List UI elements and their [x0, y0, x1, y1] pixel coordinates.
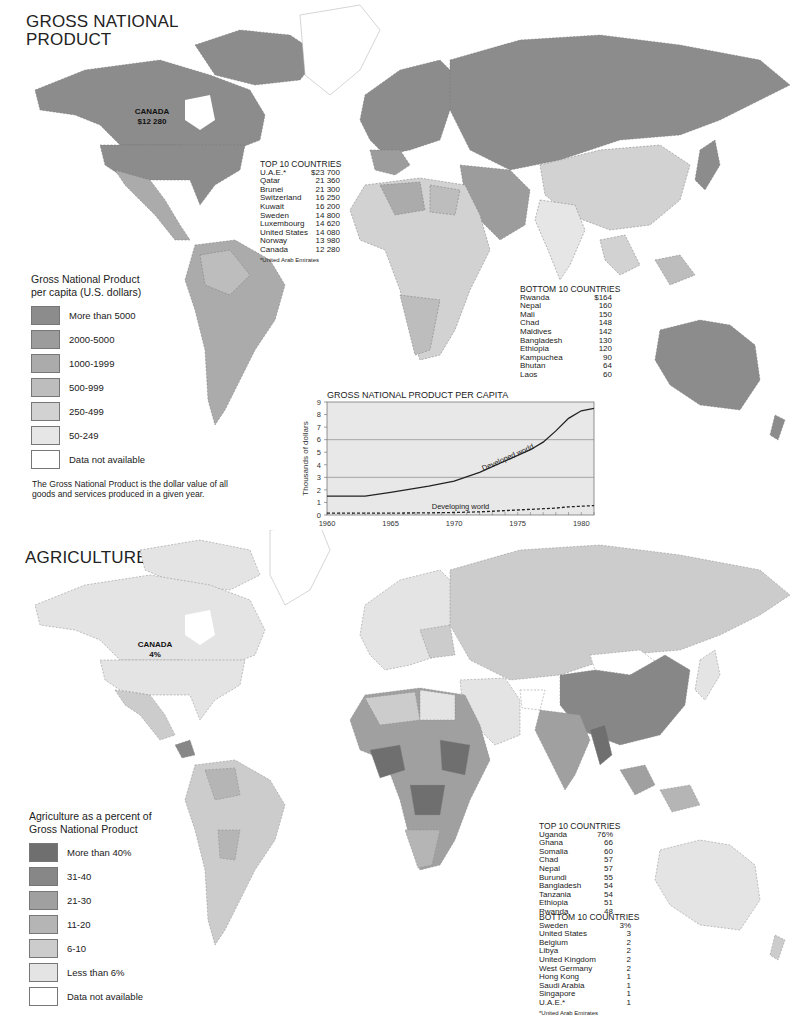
- agriculture-top10-table: TOP 10 COUNTRIES Uganda76%Ghana66Somalia…: [539, 822, 613, 917]
- agriculture-legend-title-line1: Agriculture as a percent of: [29, 810, 152, 823]
- x-tick-label: 1975: [509, 519, 526, 528]
- x-tick-label: 1970: [446, 519, 463, 528]
- agriculture-canada-name: CANADA: [125, 640, 185, 650]
- legend-item: 2000-5000: [31, 327, 145, 351]
- y-tick-label: 3: [317, 473, 321, 482]
- legend-item: 11-20: [29, 912, 152, 936]
- y-tick-label: 6: [317, 435, 321, 444]
- legend-item: 50-249: [31, 423, 145, 447]
- legend-swatch: [31, 378, 60, 397]
- chart-plot-area: [327, 402, 594, 515]
- agriculture-bottom10-footnote: *United Arab Emirates: [539, 1009, 631, 1018]
- agriculture-bottom10-table: BOTTOM 10 COUNTRIES Sweden3%United State…: [539, 913, 631, 1017]
- table-row: Canada12 280: [260, 246, 340, 255]
- gnp-legend-title: Gross National Product per capita (U.S. …: [31, 273, 145, 298]
- agriculture-legend-items: More than 40%31-4021-3011-206-10Less tha…: [29, 840, 152, 1008]
- x-tick-label: 1960: [319, 519, 336, 528]
- agriculture-canada-label: CANADA 4%: [125, 640, 185, 660]
- legend-item: 1000-1999: [31, 351, 145, 375]
- legend-swatch: [29, 843, 58, 862]
- legend-item: 500-999: [31, 375, 145, 399]
- legend-label: 2000-5000: [69, 334, 114, 345]
- table-row: Laos60: [520, 371, 612, 380]
- gnp-legend: Gross National Product per capita (U.S. …: [31, 273, 145, 471]
- legend-label: More than 5000: [69, 310, 136, 321]
- legend-label: More than 40%: [67, 847, 131, 858]
- country-name: Canada: [260, 246, 288, 255]
- gnp-definition-note: The Gross National Product is the dollar…: [32, 479, 228, 499]
- y-tick-label: 5: [317, 448, 321, 457]
- y-tick-label: 1: [317, 498, 321, 507]
- legend-swatch: [29, 867, 58, 886]
- y-tick-label: 8: [317, 410, 321, 419]
- legend-swatch: [31, 354, 60, 373]
- developing-world-label: Developing world: [432, 502, 490, 511]
- y-axis-label: Thousands of dollars: [301, 421, 310, 495]
- legend-swatch: [31, 450, 60, 469]
- country-value: 12 280: [316, 246, 340, 255]
- table-row: U.A.E.*1: [539, 999, 631, 1008]
- x-tick-label: 1965: [382, 519, 399, 528]
- agriculture-legend: Agriculture as a percent of Gross Nation…: [29, 810, 152, 1008]
- legend-swatch: [29, 891, 58, 910]
- legend-label: 21-30: [67, 895, 91, 906]
- legend-label: 31-40: [67, 871, 91, 882]
- gnp-canada-name: CANADA: [122, 107, 182, 117]
- gnp-note-line1: The Gross National Product is the dollar…: [32, 479, 228, 489]
- legend-item: 6-10: [29, 936, 152, 960]
- legend-swatch: [29, 987, 58, 1006]
- country-name: Laos: [520, 371, 537, 380]
- legend-swatch: [29, 963, 58, 982]
- gnp-per-capita-chart: 012345678919601965197019751980Thousands …: [300, 398, 600, 535]
- agriculture-top10-rows: Uganda76%Ghana66Somalia60Chad57Nepal57Bu…: [539, 831, 613, 917]
- agriculture-bottom10-rows: Sweden3%United States3Belgium2Libya2Unit…: [539, 922, 631, 1008]
- y-tick-label: 4: [317, 461, 321, 470]
- legend-swatch: [31, 402, 60, 421]
- legend-item: Data not available: [31, 447, 145, 471]
- agriculture-legend-title: Agriculture as a percent of Gross Nation…: [29, 810, 152, 835]
- legend-swatch: [29, 939, 58, 958]
- x-tick-label: 1980: [573, 519, 590, 528]
- gnp-canada-label: CANADA $12 280: [122, 107, 182, 127]
- y-tick-label: 7: [317, 423, 321, 432]
- gnp-canada-value: $12 280: [122, 117, 182, 127]
- gnp-note-line2: goods and services produced in a given y…: [32, 489, 228, 499]
- gnp-top10-table: TOP 10 COUNTRIES U.A.E.*$23 700Qatar21 3…: [260, 160, 340, 264]
- legend-item: More than 40%: [29, 840, 152, 864]
- legend-label: 1000-1999: [69, 358, 114, 369]
- y-tick-label: 9: [317, 398, 321, 407]
- legend-label: 250-499: [69, 406, 104, 417]
- legend-item: Less than 6%: [29, 960, 152, 984]
- gnp-top10-footnote: *United Arab Emirates: [260, 256, 340, 265]
- legend-item: Data not available: [29, 984, 152, 1008]
- legend-item: 31-40: [29, 864, 152, 888]
- gnp-legend-title-line2: per capita (U.S. dollars): [31, 286, 145, 299]
- legend-swatch: [31, 330, 60, 349]
- y-tick-label: 2: [317, 486, 321, 495]
- legend-label: Data not available: [69, 454, 145, 465]
- legend-label: 6-10: [67, 943, 86, 954]
- legend-label: 11-20: [67, 919, 91, 930]
- legend-swatch: [31, 306, 60, 325]
- country-value: 1: [627, 999, 631, 1008]
- legend-swatch: [31, 426, 60, 445]
- legend-item: 250-499: [31, 399, 145, 423]
- agriculture-canada-value: 4%: [125, 650, 185, 660]
- legend-label: Less than 6%: [67, 967, 125, 978]
- country-name: U.A.E.*: [539, 999, 565, 1008]
- legend-item: 21-30: [29, 888, 152, 912]
- legend-swatch: [29, 915, 58, 934]
- gnp-top10-rows: U.A.E.*$23 700Qatar21 360Brunei21 300Swi…: [260, 169, 340, 255]
- country-value: 60: [603, 371, 612, 380]
- legend-label: 500-999: [69, 382, 104, 393]
- gnp-legend-items: More than 50002000-50001000-1999500-9992…: [31, 303, 145, 471]
- legend-label: 50-249: [69, 430, 99, 441]
- legend-item: More than 5000: [31, 303, 145, 327]
- agriculture-legend-title-line2: Gross National Product: [29, 823, 152, 836]
- gnp-bottom10-rows: Rwanda$164Nepal160Mali150Chad148Maldives…: [520, 294, 612, 380]
- legend-label: Data not available: [67, 991, 143, 1002]
- gnp-bottom10-table: BOTTOM 10 COUNTRIES Rwanda$164Nepal160Ma…: [520, 285, 612, 380]
- gnp-legend-title-line1: Gross National Product: [31, 273, 145, 286]
